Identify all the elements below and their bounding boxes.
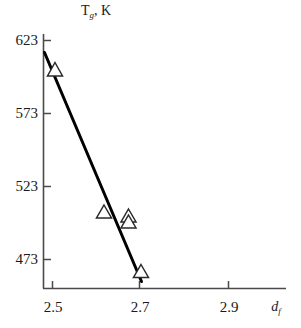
y-tick-label-523: 523	[0, 179, 38, 194]
x-tick-label-2-5: 2.5	[44, 300, 63, 315]
axes-group	[43, 34, 286, 289]
x-axis-title-base: d	[271, 299, 278, 314]
y-axis-title-subscript: g	[89, 10, 94, 20]
y-tick-label-623: 623	[0, 33, 38, 48]
trend-line	[45, 53, 142, 282]
x-tick-label-2-7: 2.7	[131, 300, 150, 315]
chart-figure: Tg, K df 623 573 523 473 2.5 2.7 2.9	[0, 0, 301, 328]
y-tick-label-573: 573	[0, 106, 38, 121]
y-axis-title-unit: , K	[94, 3, 111, 18]
y-tick-label-473: 473	[0, 252, 38, 267]
y-axis-title-base: T	[81, 3, 90, 18]
x-axis-title: df	[271, 300, 281, 314]
scatter-plot-canvas	[0, 0, 301, 328]
y-axis-title: Tg, K	[81, 4, 111, 18]
x-axis-title-subscript: f	[278, 306, 281, 316]
x-tick-label-2-9: 2.9	[220, 300, 239, 315]
